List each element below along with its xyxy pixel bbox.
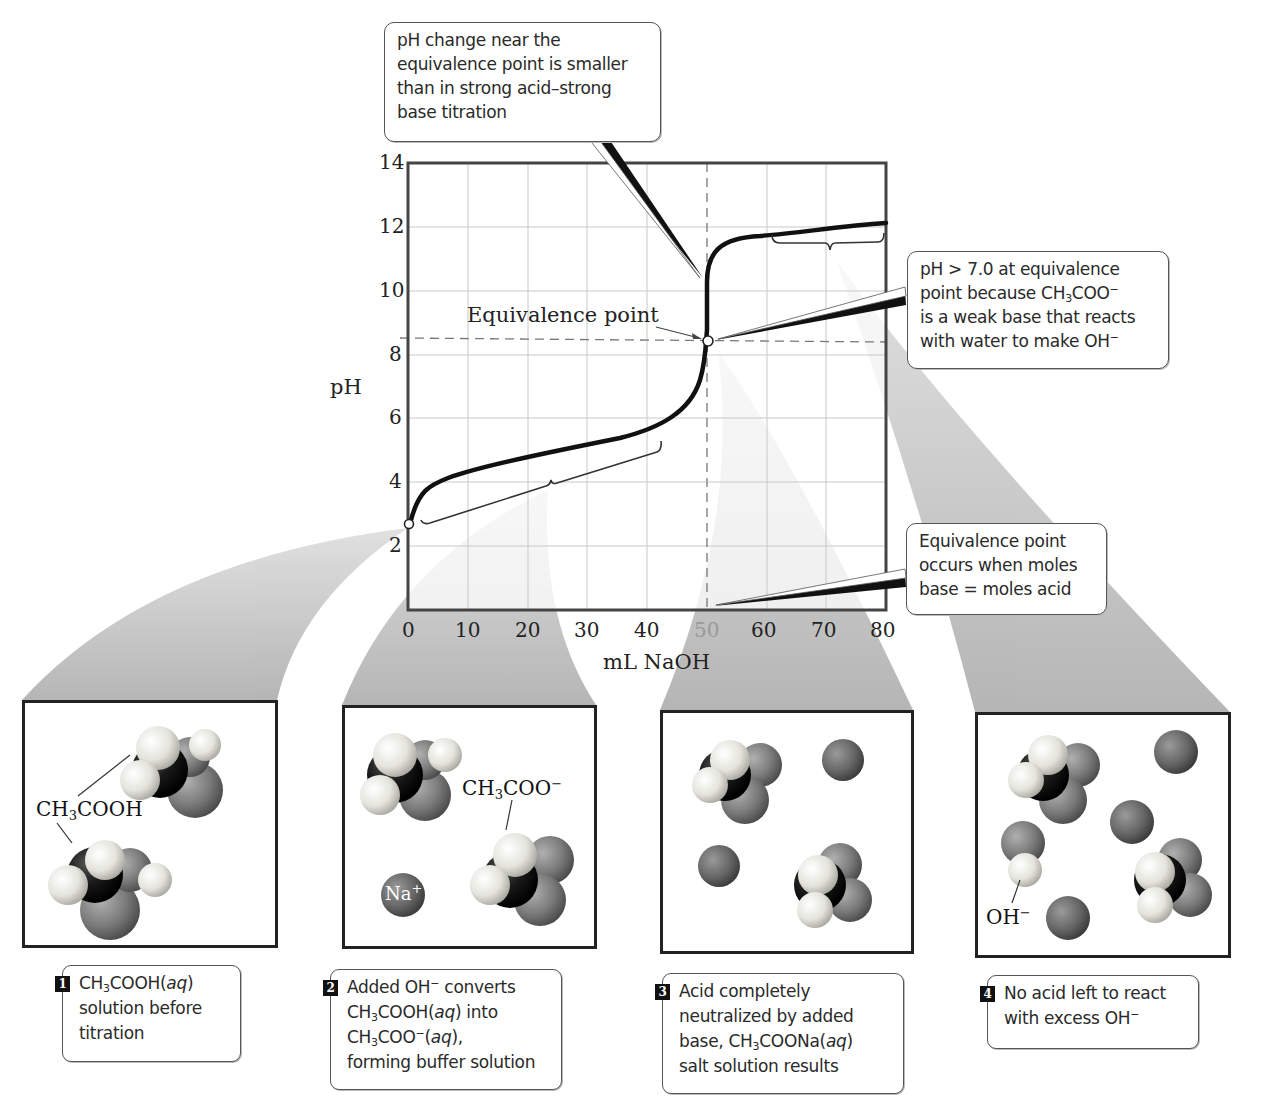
x-tick-80: 80 xyxy=(870,618,895,642)
panel-2-sodium-label: Na+ xyxy=(385,883,422,904)
x-axis-label: mL NaOH xyxy=(603,650,710,674)
callout-moles-equal: Equivalence point occurs when moles base… xyxy=(906,523,1107,615)
x-tick-50: 50 xyxy=(694,618,719,642)
x-tick-0: 0 xyxy=(402,618,415,642)
panel-1-molecule-label: CH3COOH xyxy=(36,797,143,821)
molecular-view-panel-2 xyxy=(342,705,597,949)
step-2-badge: 2 xyxy=(323,980,338,996)
equivalence-point-label: Equivalence point xyxy=(467,303,659,327)
molecular-view-panel-3 xyxy=(660,710,914,954)
equivalence-point-marker xyxy=(703,336,713,346)
wedge-panel-1 xyxy=(22,528,408,700)
y-tick-6: 6 xyxy=(389,405,402,429)
x-tick-20: 20 xyxy=(515,618,540,642)
y-axis-label: pH xyxy=(330,375,362,399)
x-tick-70: 70 xyxy=(811,618,836,642)
y-tick-12: 12 xyxy=(379,214,404,238)
y-tick-8: 8 xyxy=(389,342,402,366)
step-3-badge: 3 xyxy=(655,984,670,1000)
x-tick-30: 30 xyxy=(574,618,599,642)
x-tick-60: 60 xyxy=(751,618,776,642)
y-tick-4: 4 xyxy=(389,469,402,493)
caption-step-2: 2 Added OH− converts CH3COOH(aq) into CH… xyxy=(330,969,562,1090)
panel-4-hydroxide-label: OH− xyxy=(986,905,1031,929)
y-tick-10: 10 xyxy=(379,278,404,302)
x-tick-10: 10 xyxy=(455,618,480,642)
caption-step-3: 3 Acid completely neutralized by added b… xyxy=(662,973,904,1094)
caption-step-1: 1 CH3COOH(aq) solution before titration xyxy=(62,965,241,1062)
y-tick-14: 14 xyxy=(379,150,404,174)
step-1-badge: 1 xyxy=(55,976,70,992)
y-tick-2: 2 xyxy=(389,533,402,557)
callout-ph-change: pH change near the equivalence point is … xyxy=(384,22,661,142)
molecular-view-panel-1 xyxy=(22,700,278,948)
x-tick-40: 40 xyxy=(634,618,659,642)
start-point-marker xyxy=(405,520,414,529)
panel-2-molecule-label: CH3COO− xyxy=(462,776,562,800)
callout-ph-above-7: pH > 7.0 at equivalence point because CH… xyxy=(907,251,1169,369)
caption-step-4: 4 No acid left to react with excess OH− xyxy=(987,975,1199,1049)
step-4-badge: 4 xyxy=(980,986,995,1002)
